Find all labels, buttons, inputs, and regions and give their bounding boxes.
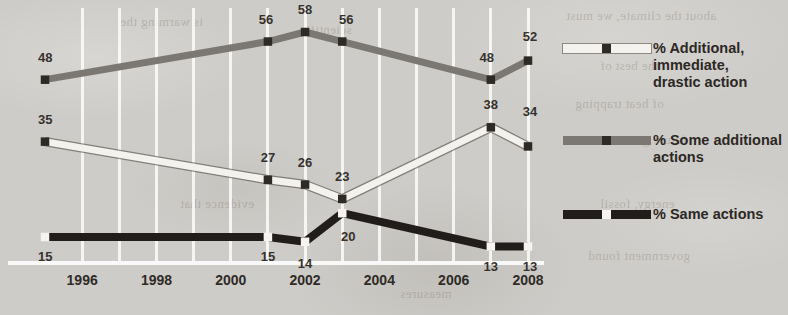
data-point-marker xyxy=(524,56,533,65)
data-point-marker xyxy=(338,209,347,218)
data-point-marker xyxy=(338,195,347,204)
legend-label: % Same actions xyxy=(653,206,763,223)
data-point-marker xyxy=(41,233,50,242)
x-axis-tick-label: 2006 xyxy=(438,272,469,288)
data-value-label: 20 xyxy=(341,229,355,244)
data-point-marker xyxy=(41,137,50,146)
data-point-marker xyxy=(264,37,273,46)
x-axis-tick-label: 2000 xyxy=(215,272,246,288)
data-value-label: 38 xyxy=(484,97,498,112)
data-value-label: 48 xyxy=(480,50,494,65)
series-line xyxy=(45,213,528,246)
data-value-label: 14 xyxy=(298,256,312,271)
x-axis-tick-label: 1998 xyxy=(141,272,172,288)
legend-item: % Additional, immediate, drastic action xyxy=(563,40,747,91)
data-value-label: 56 xyxy=(339,12,353,27)
bleed-through-text: government found xyxy=(588,248,690,264)
bleed-through-text: of heat trapping xyxy=(575,96,664,112)
x-axis-tick-label: 2002 xyxy=(289,272,320,288)
data-value-label: 56 xyxy=(259,12,273,27)
x-axis-tick-label: 1996 xyxy=(67,272,98,288)
legend-label: % Some additional actions xyxy=(653,132,782,166)
data-point-marker xyxy=(487,123,496,132)
data-value-label: 58 xyxy=(298,2,312,17)
data-point-marker xyxy=(524,142,533,151)
data-value-label: 35 xyxy=(38,112,52,127)
bleed-through-text: measures xyxy=(400,286,452,302)
x-axis-tick-label: 2008 xyxy=(512,272,543,288)
legend-swatch xyxy=(563,136,651,145)
data-value-label: 26 xyxy=(298,155,312,170)
data-value-label: 52 xyxy=(523,29,537,44)
legend-swatch-marker xyxy=(602,136,611,145)
data-point-marker xyxy=(41,75,50,84)
legend-swatch-marker xyxy=(602,44,611,53)
data-value-label: 48 xyxy=(38,50,52,65)
data-point-marker xyxy=(301,180,310,189)
series-2 xyxy=(41,28,533,84)
legend-item: % Some additional actions xyxy=(563,132,782,166)
series-line xyxy=(45,32,528,80)
data-point-marker xyxy=(301,28,310,37)
legend-swatch-marker xyxy=(602,210,611,219)
legend-swatch xyxy=(563,210,651,219)
data-value-label: 15 xyxy=(38,249,52,264)
legend-swatch xyxy=(563,44,651,53)
data-point-marker xyxy=(264,176,273,185)
data-value-label: 34 xyxy=(523,104,537,119)
series-line xyxy=(45,127,528,199)
x-axis-tick-label: 2004 xyxy=(364,272,395,288)
legend-label: % Additional, immediate, drastic action xyxy=(653,40,747,91)
data-point-marker xyxy=(338,37,347,46)
chart-screenshot: about the climate, we mustthe best ofof … xyxy=(0,0,788,315)
data-value-label: 27 xyxy=(261,150,275,165)
data-point-marker xyxy=(301,238,310,247)
data-point-marker xyxy=(524,242,533,251)
data-value-label: 15 xyxy=(261,249,275,264)
bleed-through-text: about the climate, we must xyxy=(566,8,716,24)
legend-item: % Same actions xyxy=(563,206,763,223)
data-point-marker xyxy=(487,75,496,84)
series-line-halo xyxy=(45,127,528,199)
data-value-label: 13 xyxy=(484,259,498,274)
data-point-marker xyxy=(264,233,273,242)
data-value-label: 23 xyxy=(335,169,349,184)
data-point-marker xyxy=(487,242,496,251)
series-3 xyxy=(41,209,533,251)
plot-area: 352726233834485658564852151514201313 199… xyxy=(0,0,552,268)
series-lines-group xyxy=(0,0,552,268)
series-1 xyxy=(41,123,533,203)
